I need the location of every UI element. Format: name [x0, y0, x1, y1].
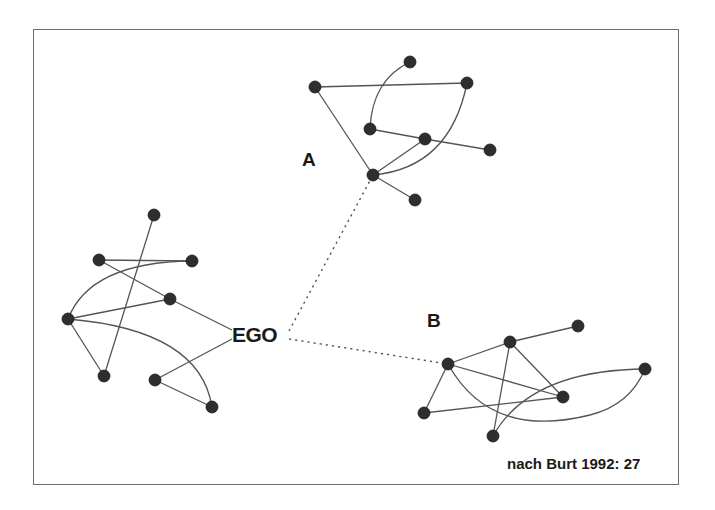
node — [572, 320, 584, 332]
ego-label: EGO — [232, 324, 277, 345]
node — [404, 56, 416, 68]
node-hub-b — [442, 358, 454, 370]
citation-text: nach Burt 1992: 27 — [507, 456, 640, 471]
node — [409, 194, 421, 206]
node — [364, 123, 376, 135]
bridge-edges — [289, 175, 448, 364]
cluster-a-label: A — [302, 150, 316, 169]
node — [484, 144, 496, 156]
node — [487, 430, 499, 442]
node — [639, 363, 651, 375]
node — [309, 81, 321, 93]
node — [98, 370, 110, 382]
node-hub-a — [367, 169, 379, 181]
cluster-b-edges — [424, 326, 645, 436]
node — [206, 401, 218, 413]
node — [62, 313, 74, 325]
node — [93, 254, 105, 266]
node — [186, 255, 198, 267]
bridge-ego-to-b — [289, 339, 448, 364]
node — [164, 293, 176, 305]
cluster-a-nodes — [309, 56, 496, 206]
cluster-b-label: B — [427, 311, 441, 330]
cluster-b-nodes — [418, 320, 651, 442]
bridge-ego-to-a — [289, 175, 373, 331]
node — [461, 77, 473, 89]
node — [419, 133, 431, 145]
node — [504, 336, 516, 348]
node — [557, 391, 569, 403]
node — [148, 209, 160, 221]
node — [149, 374, 161, 386]
network-graph — [0, 0, 715, 510]
node — [418, 407, 430, 419]
